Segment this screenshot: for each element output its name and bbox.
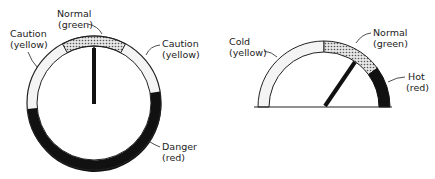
svg-text:Cold(yellow): Cold(yellow) (229, 36, 267, 58)
svg-text:Caution(yellow): Caution(yellow) (162, 38, 200, 60)
gauge-diagrams: Normal(green) Caution(yellow) Caution(ye… (0, 0, 435, 179)
needle (325, 62, 355, 106)
semicircular-gauge (254, 41, 392, 107)
svg-text:Normal(green): Normal(green) (373, 27, 408, 49)
cold-band (258, 41, 324, 107)
needle (92, 48, 96, 104)
svg-text:Danger(red): Danger(red) (162, 141, 197, 163)
svg-text:Hot(red): Hot(red) (406, 71, 429, 93)
label-normal: Normal(green) (57, 8, 93, 30)
circular-gauge (27, 36, 161, 172)
hot-band (369, 68, 391, 107)
svg-text:Caution(yellow): Caution(yellow) (10, 28, 48, 50)
